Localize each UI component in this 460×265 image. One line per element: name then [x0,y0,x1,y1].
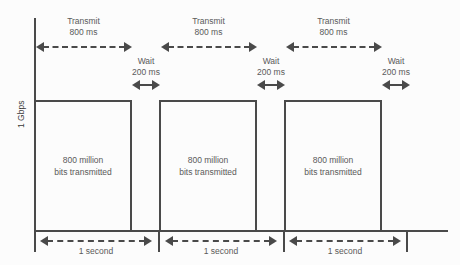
second-caption-3: 1 second [289,246,401,257]
transmit-caption-1: Transmit 800 ms [36,16,131,38]
y-axis-label: 1 Gbps [16,101,26,128]
transmit-pulse-3: 800 million bits transmitted [284,100,382,231]
second-span-arrow-2 [165,236,277,246]
wait-caption-1: Wait 200 ms [118,56,174,78]
transmit-caption-3: Transmit 800 ms [286,16,381,38]
transmit-pulse-1: 800 million bits transmitted [34,100,132,231]
second-caption-1: 1 second [40,246,152,257]
transmit-pulse-2: 800 million bits transmitted [159,100,257,231]
timing-diagram: 1 Gbps Transmit 800 ms Transmit 800 ms T… [0,0,460,265]
transmit-span-arrow-2 [161,42,257,52]
arrow-right-icon [152,80,160,90]
second-tick-2 [283,230,285,252]
wait-caption-2: Wait 200 ms [243,56,299,78]
arrow-right-icon [277,80,285,90]
transmit-span-arrow-3 [286,42,382,52]
second-caption-2: 1 second [165,246,277,257]
arrow-right-icon [124,42,132,52]
second-tick-3 [406,230,408,252]
arrow-right-icon [144,236,152,246]
arrow-right-icon [374,42,382,52]
wait-span-arrow-1 [132,80,160,90]
wait-caption-3: Wait 200 ms [368,56,424,78]
second-tick-0 [34,230,36,252]
pulse-label-1: 800 million bits transmitted [36,154,130,178]
wait-span-arrow-2 [257,80,285,90]
second-tick-1 [158,230,160,252]
arrow-right-icon [402,80,410,90]
second-span-arrow-3 [289,236,401,246]
wait-span-arrow-3 [382,80,410,90]
pulse-label-3: 800 million bits transmitted [286,154,380,178]
second-span-arrow-1 [40,236,152,246]
transmit-caption-2: Transmit 800 ms [161,16,256,38]
pulse-label-2: 800 million bits transmitted [161,154,255,178]
transmit-span-arrow-1 [36,42,132,52]
arrow-right-icon [249,42,257,52]
arrow-right-icon [269,236,277,246]
arrow-right-icon [393,236,401,246]
